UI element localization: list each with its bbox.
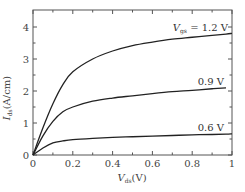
label-vgs-0-6: 0.6 V — [198, 122, 225, 133]
y-tick-label: 1 — [23, 118, 29, 129]
x-axis-label: Vds(V) — [117, 172, 146, 184]
x-tick-label: 0.2 — [65, 158, 81, 169]
y-axis-label: Ids(A/cm) — [1, 76, 13, 121]
iv-characteristics-chart: 00.20.40.60.8101234 Vgs = 1.2 V0.9 V0.6 … — [0, 0, 245, 192]
curve-series-2 — [33, 134, 232, 155]
label-vgs-0-9: 0.9 V — [198, 76, 225, 87]
x-tick-label: 0.8 — [184, 158, 200, 169]
y-tick-label: 3 — [23, 54, 29, 65]
y-tick-label: 0 — [23, 150, 29, 161]
y-tick-label: 2 — [23, 86, 29, 97]
label-vgs-1-2: Vgs = 1.2 V — [173, 22, 229, 35]
x-tick-label: 0.4 — [105, 158, 121, 169]
x-tick-label: 0 — [30, 158, 36, 169]
data-curves — [33, 33, 232, 155]
x-tick-label: 0.6 — [144, 158, 160, 169]
x-tick-label: 1 — [229, 158, 235, 169]
y-tick-label: 4 — [23, 22, 29, 33]
